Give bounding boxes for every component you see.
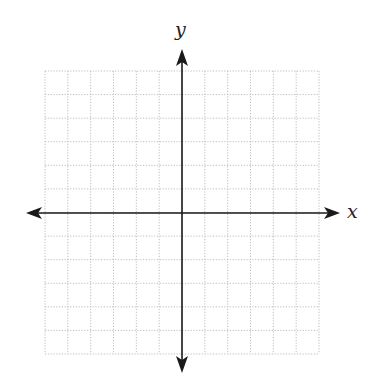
x-axis-label: x (347, 200, 358, 222)
y-axis-label: y (174, 18, 186, 40)
axes (26, 49, 340, 373)
coordinate-plane: x y (0, 0, 383, 382)
